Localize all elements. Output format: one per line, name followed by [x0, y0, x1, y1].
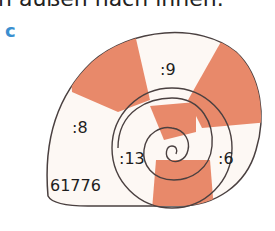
- start-number: 61776: [50, 176, 101, 195]
- step-div-9: :9: [160, 60, 176, 79]
- step-div-6: :6: [218, 149, 234, 168]
- step-div-8: :8: [72, 118, 88, 137]
- snail-shell-diagram: :9 :8 :13 :6 61776: [0, 0, 275, 231]
- step-div-13: :13: [119, 149, 145, 168]
